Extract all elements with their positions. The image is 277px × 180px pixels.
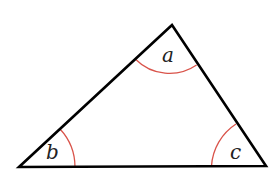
angle-label-b: b <box>46 140 59 164</box>
triangle-diagram: a b c <box>0 0 277 180</box>
angle-label-a: a <box>162 43 174 67</box>
angle-label-c: c <box>230 140 241 164</box>
triangle-figure: a b c <box>0 0 277 180</box>
angle-arc-b <box>60 129 75 167</box>
